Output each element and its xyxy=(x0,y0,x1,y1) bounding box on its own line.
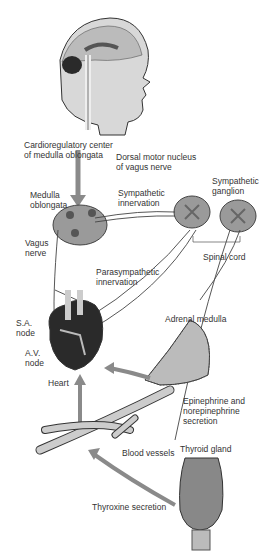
medulla-cross-section xyxy=(53,205,107,245)
heart-illustration xyxy=(49,290,103,370)
label-sympathetic-innervation: Sympathetic innervation xyxy=(118,188,165,208)
label-cardioregulatory-center: Cardioregulatory center of medulla oblon… xyxy=(24,140,113,160)
label-medulla-oblongata: Medulla oblongata xyxy=(30,190,67,210)
label-vagus-nerve: Vagus nerve xyxy=(25,238,48,258)
label-spinal-cord: Spinal cord xyxy=(203,252,246,262)
heart-rate-control-diagram: Cardioregulatory center of medulla oblon… xyxy=(0,0,268,556)
label-epinephrine-secretion: Epinephrine and norepinephrine secretion xyxy=(183,396,245,426)
label-thyroid-gland: Thyroid gland xyxy=(180,444,232,454)
label-dorsal-motor-nucleus: Dorsal motor nucleus of vagus nerve xyxy=(116,152,196,172)
label-adrenal-medulla: Adrenal medulla xyxy=(165,314,226,324)
label-parasympathetic-innervation: Parasympathetic innervation xyxy=(96,267,159,287)
head-illustration xyxy=(60,18,150,135)
adrenal-medulla-illustration xyxy=(145,320,210,385)
label-thyroxine-secretion: Thyroxine secretion xyxy=(92,502,166,512)
label-av-node: A.V. node xyxy=(25,348,44,368)
label-sympathetic-ganglion: Sympathetic ganglion xyxy=(212,176,259,196)
label-blood-vessels: Blood vessels xyxy=(122,448,174,458)
thyroid-gland-illustration xyxy=(180,458,223,550)
label-sa-node: S.A. node xyxy=(16,318,35,338)
blood-vessels-illustration xyxy=(40,390,170,450)
label-heart: Heart xyxy=(48,378,69,388)
